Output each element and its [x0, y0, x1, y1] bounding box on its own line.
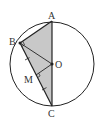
- label-o: O: [55, 59, 62, 70]
- shaded-triangle-abc: [20, 21, 52, 106]
- label-a: A: [48, 10, 56, 21]
- label-m: M: [24, 74, 33, 85]
- point-b-dot: [19, 42, 22, 45]
- label-c: C: [48, 108, 55, 119]
- label-b: B: [9, 36, 16, 47]
- geometry-diagram: A B O M C: [0, 0, 102, 120]
- point-o-dot: [50, 62, 53, 65]
